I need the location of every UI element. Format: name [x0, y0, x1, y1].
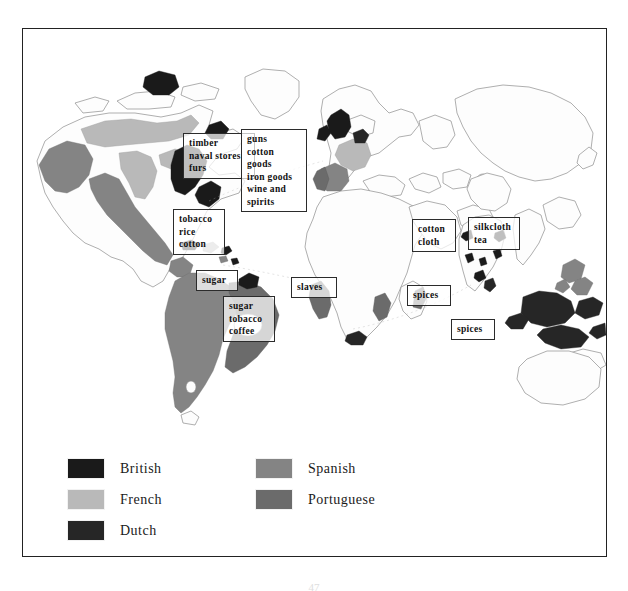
callout-line: spices — [457, 323, 489, 336]
callout-caribbean: sugar — [196, 270, 238, 291]
legend-swatch-british — [67, 458, 105, 479]
callout-line: spirits — [247, 196, 301, 209]
page-number: 47 — [0, 581, 628, 591]
callout-line: silkcloth — [474, 221, 514, 234]
callout-line: coffee — [229, 325, 269, 338]
callout-line: cotton — [179, 238, 219, 251]
legend-item-portuguese: Portuguese — [255, 484, 375, 515]
legend-item-spanish: Spanish — [255, 453, 375, 484]
callout-line: guns — [247, 133, 301, 146]
callout-line: timber — [189, 137, 249, 150]
world-map: .coast { fill:#fdfdfd; stroke:#8c8c8c; s… — [23, 29, 606, 429]
callout-africa-slaves: slaves — [291, 277, 337, 298]
callout-line: wine and — [247, 183, 301, 196]
callout-east-indies-spices: spices — [451, 319, 495, 340]
callout-europe-exports: guns cotton goods iron goods wine and sp… — [241, 129, 307, 212]
legend-label-spanish: Spanish — [308, 461, 356, 477]
inland-water-feature-2 — [186, 381, 196, 393]
callout-line: sugar — [229, 300, 269, 313]
running-head — [0, 0, 628, 5]
callout-line: furs — [189, 162, 249, 175]
callout-line: rice — [179, 226, 219, 239]
legend-column-left: British French Dutch — [67, 453, 162, 546]
legend-label-portuguese: Portuguese — [308, 492, 375, 508]
callout-line: tobacco — [179, 213, 219, 226]
callout-line: sugar — [202, 274, 232, 287]
legend-item-french: French — [67, 484, 162, 515]
callout-china-silk-tea: silkcloth tea — [468, 217, 520, 250]
callout-south-america: sugar tobacco coffee — [223, 296, 275, 342]
legend-item-dutch: Dutch — [67, 515, 162, 546]
callout-line: iron goods — [247, 171, 301, 184]
callout-line: cloth — [418, 236, 450, 249]
callout-line: spices — [413, 289, 445, 302]
callout-line: slaves — [297, 281, 331, 294]
legend-label-dutch: Dutch — [120, 523, 157, 539]
legend-swatch-portuguese — [255, 489, 293, 510]
callout-line: tobacco — [229, 313, 269, 326]
map-legend: British French Dutch Spanish — [67, 453, 487, 545]
callout-north-america-south: tobacco rice cotton — [173, 209, 225, 255]
figure-frame: .coast { fill:#fdfdfd; stroke:#8c8c8c; s… — [22, 28, 607, 557]
callout-line: cotton — [247, 146, 301, 159]
callout-india-spices: spices — [407, 285, 451, 306]
callout-india-cotton-cloth: cotton cloth — [412, 219, 456, 252]
legend-label-french: French — [120, 492, 162, 508]
callout-line: cotton — [418, 223, 450, 236]
legend-column-right: Spanish Portuguese — [255, 453, 375, 515]
legend-swatch-dutch — [67, 520, 105, 541]
callout-line: tea — [474, 234, 514, 247]
legend-swatch-french — [67, 489, 105, 510]
legend-item-british: British — [67, 453, 162, 484]
legend-label-british: British — [120, 461, 162, 477]
callout-line: naval stores — [189, 150, 249, 163]
callout-line: goods — [247, 158, 301, 171]
legend-swatch-spanish — [255, 458, 293, 479]
